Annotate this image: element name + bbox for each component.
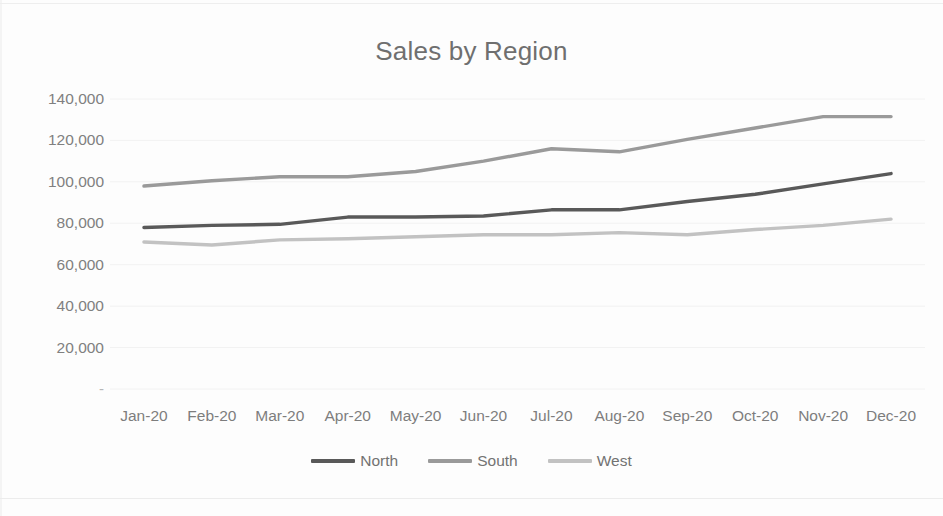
x-axis-tick-label: Oct-20 — [732, 406, 779, 426]
x-axis-tick-label: Mar-20 — [255, 406, 304, 426]
y-axis-tick-label: 40,000 — [8, 298, 104, 314]
x-axis-tick-label: Aug-20 — [594, 406, 644, 426]
legend-label: West — [597, 452, 632, 470]
y-axis-tick-label: - — [8, 381, 104, 397]
x-axis-tick-label: Jan-20 — [120, 406, 167, 426]
legend-item-west[interactable]: West — [548, 452, 632, 470]
legend-swatch-icon — [428, 459, 472, 463]
legend-label: North — [360, 452, 398, 470]
plot-svg — [110, 99, 925, 389]
y-axis: -20,00040,00060,00080,000100,000120,0001… — [0, 0, 104, 516]
legend-swatch-icon — [311, 459, 355, 463]
legend-swatch-icon — [548, 459, 592, 463]
legend-item-north[interactable]: North — [311, 452, 398, 470]
x-axis-tick-label: Nov-20 — [798, 406, 848, 426]
chart-canvas: Sales by Region -20,00040,00060,00080,00… — [0, 0, 943, 516]
scan-line-artifact-bottom — [0, 498, 943, 499]
y-axis-tick-label: 20,000 — [8, 340, 104, 356]
series-line-south[interactable] — [144, 117, 891, 186]
x-axis-tick-label: Jun-20 — [460, 406, 507, 426]
y-axis-tick-label: 120,000 — [8, 132, 104, 148]
scan-line-artifact-top — [0, 3, 943, 4]
x-axis-tick-label: Apr-20 — [324, 406, 371, 426]
x-axis-tick-label: Dec-20 — [866, 406, 916, 426]
y-axis-tick-label: 60,000 — [8, 257, 104, 273]
y-axis-tick-label: 100,000 — [8, 174, 104, 190]
y-axis-tick-label: 140,000 — [8, 91, 104, 107]
x-axis-tick-label: Jul-20 — [530, 406, 572, 426]
y-axis-tick-label: 80,000 — [8, 215, 104, 231]
x-axis-tick-label: Feb-20 — [187, 406, 236, 426]
x-axis-tick-label: Sep-20 — [662, 406, 712, 426]
plot-area — [110, 99, 925, 389]
legend-item-south[interactable]: South — [428, 452, 518, 470]
x-axis-tick-label: May-20 — [390, 406, 442, 426]
legend-label: South — [477, 452, 518, 470]
x-axis: Jan-20Feb-20Mar-20Apr-20May-20Jun-20Jul-… — [110, 406, 925, 430]
chart-legend: NorthSouthWest — [0, 452, 943, 470]
chart-title: Sales by Region — [0, 36, 943, 67]
series-lines — [144, 117, 891, 245]
